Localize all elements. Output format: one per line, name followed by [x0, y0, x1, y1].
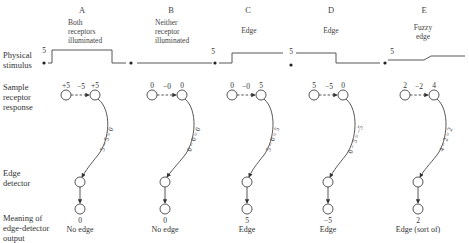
svg-text:output: output [3, 233, 25, 243]
svg-text:−5: −5 [324, 216, 332, 225]
svg-text:edge: edge [416, 32, 431, 41]
column-c: C Edge 0 5 −0 5 − 0 = 5 5 Edge [227, 5, 282, 234]
receptor-left [61, 90, 71, 100]
svg-text:Fuzzy: Fuzzy [414, 23, 433, 32]
svg-text:Edge: Edge [3, 168, 21, 178]
svg-text:Physical: Physical [3, 50, 32, 60]
svg-text:0: 0 [163, 216, 167, 225]
svg-text:A: A [79, 5, 86, 15]
svg-text:Edge: Edge [239, 225, 256, 234]
column-a: A Both receptors illuminated +5 +5 −5 5 … [61, 5, 116, 234]
stimulus-waveform [48, 50, 465, 63]
row-label-meaning: Meaning of edge-detector output [3, 213, 49, 243]
svg-text:Sample: Sample [3, 82, 29, 92]
svg-text:detector: detector [3, 178, 31, 188]
svg-text:receptors: receptors [68, 27, 96, 36]
svg-text:Meaning of: Meaning of [3, 213, 43, 223]
svg-text:0 − 0 = 0: 0 − 0 = 0 [185, 126, 202, 153]
svg-text:2: 2 [416, 216, 420, 225]
svg-text:4: 4 [432, 81, 436, 90]
svg-text:5: 5 [42, 46, 46, 55]
receptor-left [227, 90, 237, 100]
row-label-stimulus: Physical stimulus [3, 50, 32, 70]
output-node [323, 204, 333, 214]
svg-text:No edge: No edge [152, 225, 179, 234]
svg-text:−0: −0 [163, 82, 171, 91]
svg-text:stimulus: stimulus [3, 60, 32, 70]
output-node [160, 204, 170, 214]
column-e: E Fuzzy edge 2 4 −2 4 − 2 = 2 2 Edge (so… [396, 5, 455, 234]
receptor-left [400, 90, 410, 100]
svg-text:−5: −5 [325, 82, 333, 91]
svg-text:response: response [3, 102, 33, 112]
svg-text:+5: +5 [91, 81, 99, 90]
row-label-response: Sample receptor response [3, 82, 33, 112]
svg-text:0: 0 [78, 216, 82, 225]
svg-text:5: 5 [245, 216, 249, 225]
svg-text:illuminated: illuminated [155, 36, 189, 45]
svg-text:0: 0 [180, 81, 184, 90]
svg-text:No edge: No edge [67, 225, 94, 234]
output-node [75, 204, 85, 214]
svg-text:edge-detector: edge-detector [3, 223, 49, 233]
svg-text:Neither: Neither [155, 18, 178, 27]
receptor-right [256, 90, 266, 100]
svg-text:−2: −2 [415, 82, 423, 91]
receptor-left [147, 90, 157, 100]
edge-detector [160, 177, 170, 187]
svg-text:Edge: Edge [323, 26, 339, 35]
svg-text:5 − 0 = 5: 5 − 0 = 5 [264, 126, 281, 153]
stimulus-level-labels: 5 5 5 5 [42, 46, 394, 56]
svg-text:2: 2 [403, 81, 407, 90]
svg-text:5: 5 [312, 81, 316, 90]
svg-text:B: B [168, 5, 174, 15]
svg-text:Both: Both [68, 18, 83, 27]
svg-text:−0: −0 [242, 82, 250, 91]
svg-text:5: 5 [289, 47, 293, 56]
svg-text:D: D [328, 5, 334, 15]
output-node [242, 204, 252, 214]
svg-text:5: 5 [390, 47, 394, 56]
svg-text:Edge: Edge [241, 26, 257, 35]
row-label-detector: Edge detector [3, 168, 31, 188]
svg-text:E: E [421, 5, 426, 15]
stimulus-baseline-dots [42, 61, 386, 66]
receptor-right [90, 90, 100, 100]
edge-detection-diagram: Physical stimulus Sample receptor respon… [0, 0, 469, 243]
svg-text:−5: −5 [77, 82, 85, 91]
svg-text:receptor: receptor [155, 27, 180, 36]
svg-text:C: C [245, 5, 251, 15]
svg-text:5: 5 [211, 47, 215, 56]
svg-text:Edge: Edge [320, 225, 337, 234]
svg-text:0: 0 [341, 81, 345, 90]
svg-text:receptor: receptor [3, 92, 31, 102]
svg-text:Edge (sort of): Edge (sort of) [396, 225, 441, 234]
edge-detector [75, 177, 85, 187]
svg-text:0: 0 [230, 81, 234, 90]
svg-text:5: 5 [259, 81, 263, 90]
svg-text:0: 0 [150, 81, 154, 90]
edge-detector [413, 177, 423, 187]
output-node [413, 204, 423, 214]
svg-text:4 − 2 = 2: 4 − 2 = 2 [437, 126, 454, 153]
svg-text:5 − 5 = 0: 5 − 5 = 0 [98, 126, 115, 153]
receptor-right [338, 90, 348, 100]
column-b: B Neither receptor illuminated 0 0 −0 0 … [147, 5, 203, 234]
edge-detector [323, 177, 333, 187]
svg-text:0 − 5 = −5: 0 − 5 = −5 [346, 124, 365, 155]
svg-text:illuminated: illuminated [68, 36, 102, 45]
column-d: D Edge 5 0 −5 0 − 5 = −5 −5 Edge [309, 5, 365, 234]
receptor-right [177, 90, 187, 100]
receptor-right [429, 90, 439, 100]
receptor-left [309, 90, 319, 100]
svg-text:+5: +5 [62, 81, 70, 90]
edge-detector [242, 177, 252, 187]
